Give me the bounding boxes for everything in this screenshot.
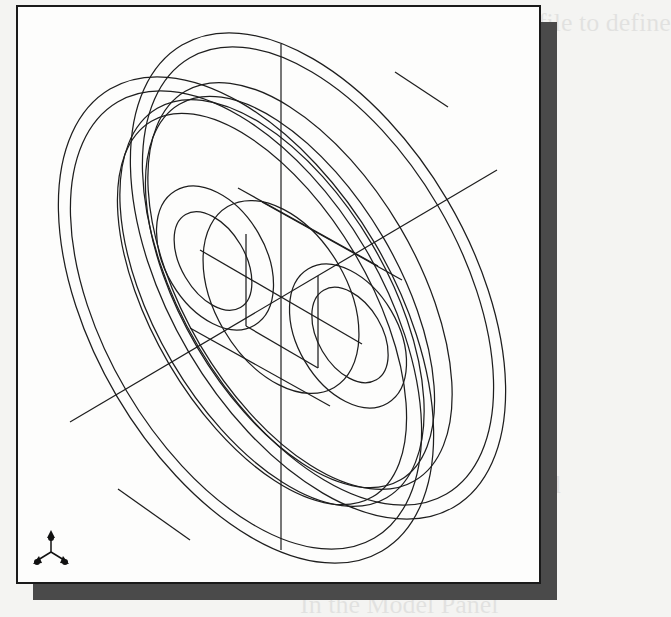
wheel-outer-rim-front bbox=[0, 13, 511, 617]
coordinate-triad-icon bbox=[33, 530, 69, 565]
wheel-outer-rim-back bbox=[53, 0, 570, 583]
rim-silhouette-tangent-lines bbox=[118, 72, 448, 540]
